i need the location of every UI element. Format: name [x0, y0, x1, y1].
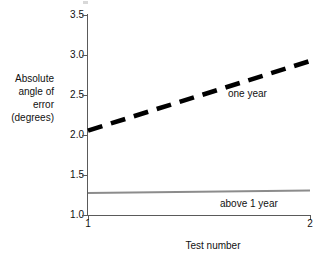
plot-area	[0, 0, 329, 263]
x-axis-label: Test number	[148, 240, 278, 251]
chart-figure: Absolute angle of error (degrees) 3.5 3.…	[0, 0, 329, 263]
series-line-above-one-year	[88, 191, 310, 193]
series-line-one-year	[88, 61, 310, 131]
series-label-above-one-year: above 1 year	[220, 198, 278, 209]
series-label-one-year: one year	[228, 88, 267, 99]
